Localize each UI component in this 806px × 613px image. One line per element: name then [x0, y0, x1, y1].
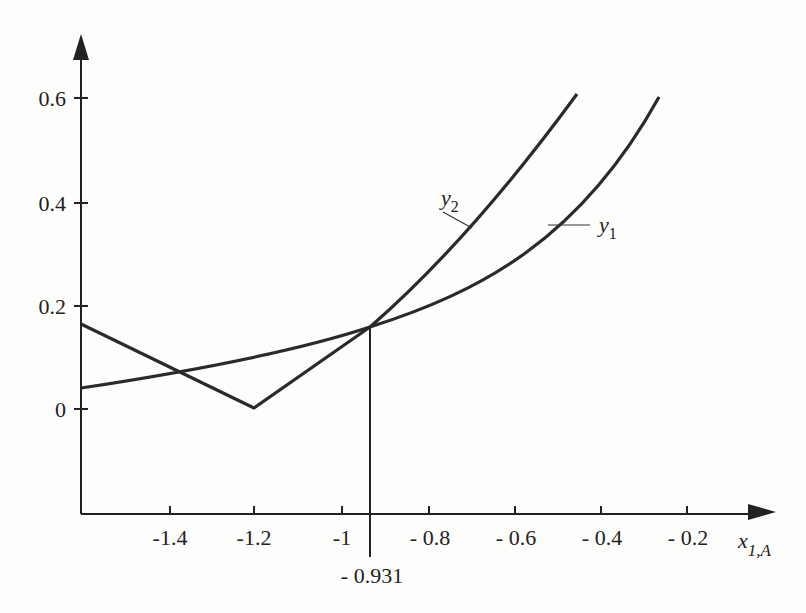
- x-tick-label: - 0.4: [582, 525, 622, 550]
- axes: [81, 50, 765, 514]
- x-tick-label: -1: [333, 525, 351, 550]
- x-tick-label: -1.4: [153, 525, 188, 550]
- intersection-label: - 0.931: [341, 563, 403, 588]
- y-tick-label: 0.6: [39, 86, 67, 111]
- x-axis-label: x1,A: [737, 528, 772, 560]
- curve-y2: [81, 94, 577, 408]
- x-tick-label: - 0.8: [410, 525, 450, 550]
- x-ticks: [170, 506, 687, 514]
- y-axis-arrow-icon: [73, 34, 89, 60]
- x-tick-label: - 0.2: [668, 525, 708, 550]
- y2-label: y2: [439, 185, 459, 215]
- x-tick-label: - 0.6: [496, 525, 536, 550]
- chart-canvas: 0.6 0.4 0.2 0 -1.4 -1.2 -1 - 0.8 - 0.6 -…: [0, 0, 806, 613]
- y-tick-label: 0: [55, 397, 66, 422]
- y1-label: y1: [597, 212, 617, 242]
- y-tick-label: 0.4: [39, 191, 67, 216]
- x-axis-arrow-icon: [748, 504, 776, 520]
- x-tick-label: -1.2: [237, 525, 272, 550]
- y-tick-label: 0.2: [39, 294, 67, 319]
